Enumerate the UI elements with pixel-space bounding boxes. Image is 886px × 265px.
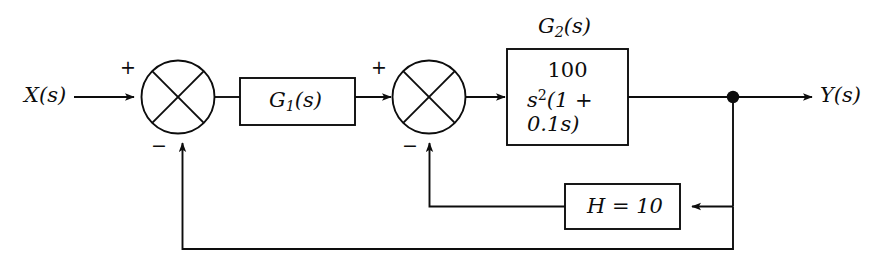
g2-block-caption: G2(s) <box>538 16 591 40</box>
inner-summing-junction-plus-sign: + <box>371 58 387 77</box>
g2-denominator-exponent: 2 <box>538 87 547 103</box>
g2-numerator: 100 <box>541 58 593 84</box>
block-diagram: X(s) Y(s) + − + − G1(s) G2(s) 100 s2(1 +… <box>0 0 886 265</box>
g2-block-caption-subscript: 2 <box>555 24 564 40</box>
g1-block-label-base: G <box>269 88 286 112</box>
output-takeoff-node-dot <box>727 91 739 103</box>
g2-block-caption-tail: (s) <box>564 14 591 38</box>
diagram-canvas <box>0 0 886 265</box>
g2-transfer-function: 100 s2(1 + 0.1s) <box>521 58 614 136</box>
outer-summing-junction-minus-sign: − <box>151 136 167 155</box>
g2-denominator-base: s <box>527 88 538 112</box>
g1-block-label-subscript: 1 <box>286 98 295 114</box>
wire-h-block-to-sum2 <box>430 143 566 207</box>
inner-summing-junction-minus-sign: − <box>402 136 418 155</box>
g1-block-label: G1(s) <box>269 90 322 114</box>
outer-summing-junction-plus-sign: + <box>120 58 136 77</box>
h-block-label: H = 10 <box>587 196 663 217</box>
g1-block-label-tail: (s) <box>295 88 322 112</box>
input-signal-label: X(s) <box>24 85 66 106</box>
g2-block-caption-base: G <box>538 14 555 38</box>
g2-denominator: s2(1 + 0.1s) <box>521 84 614 136</box>
output-signal-label: Y(s) <box>820 85 861 106</box>
